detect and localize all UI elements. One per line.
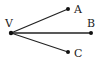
ray-vc (11, 33, 68, 52)
point-v (9, 31, 13, 35)
label-v: V (4, 17, 14, 30)
label-a: A (73, 3, 83, 16)
point-a (66, 7, 70, 11)
point-b (89, 31, 93, 35)
ray-va (11, 9, 68, 33)
labels: V A B C (4, 3, 95, 60)
point-c (66, 50, 70, 54)
label-c: C (74, 47, 82, 60)
angle-diagram: V A B C (0, 0, 98, 63)
label-b: B (87, 17, 95, 30)
